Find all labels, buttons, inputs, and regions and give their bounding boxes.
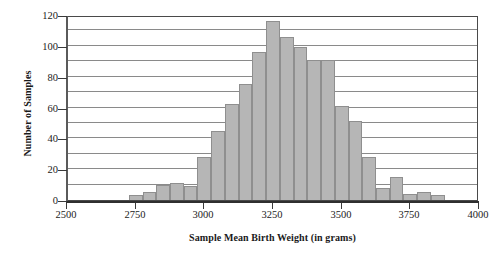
x-axis-tick-label: 3250 [242, 210, 302, 221]
x-axis-tick-label: 3750 [379, 210, 439, 221]
x-axis-tick-label: 3000 [173, 210, 233, 221]
x-axis-tick-label: 2500 [36, 210, 96, 221]
histogram-bar [184, 186, 198, 200]
histogram-bar [390, 177, 404, 200]
y-axis-tick [58, 139, 67, 140]
histogram-bar [170, 183, 184, 200]
histogram-bar [403, 194, 417, 200]
x-axis-tick-label: 4000 [448, 210, 501, 221]
y-axis-tick-label: 120 [22, 11, 58, 22]
histogram-bar [266, 21, 280, 200]
histogram-bar [252, 52, 266, 200]
histogram-bar [335, 106, 349, 200]
y-axis-tick [58, 47, 67, 48]
histogram-bar [376, 188, 390, 200]
histogram-bar [239, 84, 253, 200]
histogram-bar [294, 47, 308, 200]
y-axis-tick [58, 170, 67, 171]
histogram-bar [431, 195, 445, 200]
histogram-figure: 020406080100120 250027503000325035003750… [0, 0, 501, 256]
y-axis-tick-label: 0 [22, 196, 58, 207]
histogram-bar [280, 37, 294, 200]
histogram-bar [143, 192, 157, 200]
plot-area [66, 16, 478, 201]
y-axis-title: Number of Samples [22, 39, 33, 189]
x-axis-title: Sample Mean Birth Weight (in grams) [66, 232, 479, 243]
histogram-bar [349, 121, 363, 200]
histogram-bar [211, 131, 225, 200]
x-axis-tick-label: 3500 [311, 210, 371, 221]
histogram-bar [225, 104, 239, 200]
y-axis-tick [58, 109, 67, 110]
histogram-bar [362, 157, 376, 200]
y-axis-tick [58, 201, 67, 202]
x-axis-tick-label: 2750 [105, 210, 165, 221]
histogram-bar [156, 185, 170, 200]
histogram-bar [307, 60, 321, 200]
y-axis-tick [58, 16, 67, 17]
histogram-bar [417, 192, 431, 200]
histogram-bar [129, 195, 143, 200]
histogram-bar [197, 157, 211, 200]
histogram-bar [321, 60, 335, 200]
y-axis-tick [58, 78, 67, 79]
